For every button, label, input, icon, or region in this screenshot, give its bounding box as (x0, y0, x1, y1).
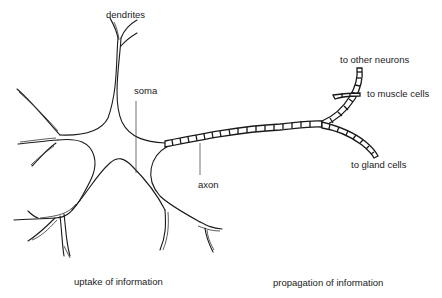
label-soma: soma (134, 86, 157, 96)
label-to-muscle-cells: to muscle cells (367, 89, 429, 99)
axon-branch-gland (322, 122, 378, 158)
dendrite-left (17, 89, 60, 166)
axon-trunk (165, 121, 322, 147)
soma-outline (58, 38, 200, 222)
dendrite-bottom-left (14, 200, 80, 258)
label-to-gland-cells: to gland cells (351, 160, 406, 170)
label-uptake-of-information: uptake of information (74, 277, 163, 287)
label-propagation-of-information: propagation of information (273, 278, 383, 288)
label-to-other-neurons: to other neurons (340, 55, 409, 65)
neuron-diagram (0, 0, 442, 298)
label-dendrites: dendrites (106, 10, 145, 20)
label-axon: axon (198, 180, 219, 190)
dendrite-top (110, 18, 137, 46)
